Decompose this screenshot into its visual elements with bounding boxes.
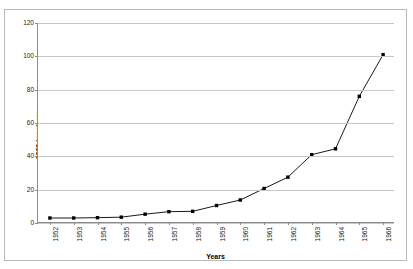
x-tick-label: 1965 [362,227,369,241]
y-tick-mark [35,156,38,157]
x-tick-label: 1953 [77,227,84,241]
screenshot-root: 1000 tons/year 0204060801001201952195319… [0,0,413,269]
x-tick-label: 1959 [220,227,227,241]
y-tick-mark [35,90,38,91]
x-tick-mark [288,222,289,225]
y-tick-mark [35,190,38,191]
x-tick-mark [359,222,360,225]
data-point-marker [120,215,123,218]
x-tick-mark [193,222,194,225]
x-tick-mark [383,222,384,225]
x-tick-label: 1958 [196,227,203,241]
x-tick-mark [217,222,218,225]
x-tick-mark [74,222,75,225]
data-point-marker [215,204,218,207]
x-tick-mark [169,222,170,225]
data-point-marker [334,147,337,150]
data-point-marker [96,216,99,219]
y-gridline [38,56,394,57]
clipped-text-artifact [10,0,270,7]
series-line [50,55,383,218]
x-tick-label: 1966 [386,227,393,241]
y-gridline [38,123,394,124]
y-gridline [38,23,394,24]
x-tick-mark [264,222,265,225]
x-tick-label: 1961 [267,227,274,241]
x-tick-label: 1964 [339,227,346,241]
x-tick-mark [240,222,241,225]
x-axis-title: Years [37,253,394,260]
y-tick-label: 100 [23,53,34,60]
y-tick-label: 120 [23,20,34,27]
data-point-marker [167,210,170,213]
data-point-marker [358,95,361,98]
y-tick-mark [35,123,38,124]
x-tick-mark [121,222,122,225]
x-tick-mark [336,222,337,225]
x-tick-mark [50,222,51,225]
x-tick-label: 1962 [291,227,298,241]
x-tick-label: 1957 [172,227,179,241]
x-tick-label: 1952 [53,227,60,241]
y-gridline [38,90,394,91]
data-point-marker [286,175,289,178]
y-tick-mark [35,223,38,224]
data-point-marker [72,216,75,219]
y-tick-label: 20 [27,186,34,193]
data-point-marker [239,198,242,201]
data-point-marker [143,212,146,215]
y-tick-label: 0 [30,220,34,227]
data-point-marker [48,216,51,219]
y-gridline [38,156,394,157]
x-tick-label: 1963 [315,227,322,241]
chart-frame: 1000 tons/year 0204060801001201952195319… [4,9,407,261]
x-tick-mark [145,222,146,225]
plot-area: 0204060801001201952195319541955195619571… [37,23,394,223]
x-tick-label: 1956 [148,227,155,241]
x-tick-label: 1960 [243,227,250,241]
x-tick-mark [312,222,313,225]
data-point-marker [191,210,194,213]
y-tick-label: 60 [27,120,34,127]
x-tick-mark [98,222,99,225]
y-tick-mark [35,23,38,24]
x-tick-label: 1955 [124,227,131,241]
y-tick-label: 80 [27,86,34,93]
x-tick-label: 1954 [101,227,108,241]
y-gridline [38,190,394,191]
y-tick-label: 40 [27,153,34,160]
y-tick-mark [35,56,38,57]
